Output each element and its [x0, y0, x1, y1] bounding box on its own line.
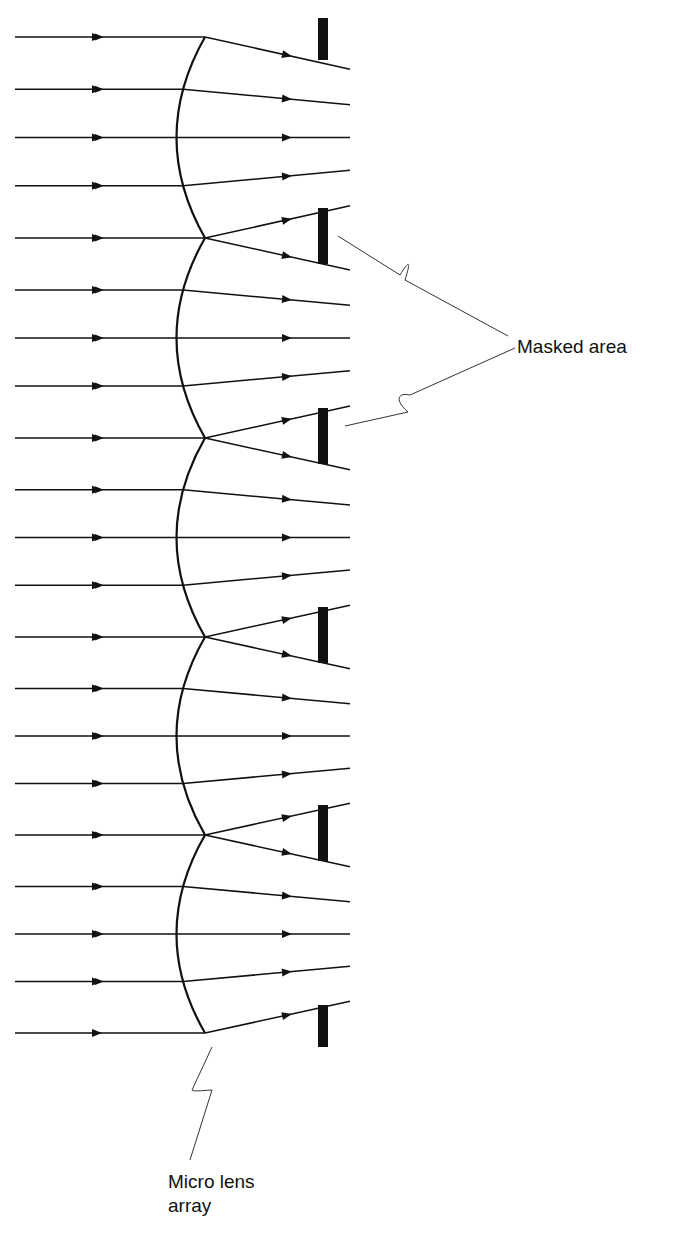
arrow-icon: [92, 334, 102, 342]
refracted-ray: [183, 688, 350, 703]
refracted-ray: [205, 406, 350, 438]
arrow-icon: [282, 495, 293, 504]
arrow-icon: [92, 882, 102, 890]
refracted-ray: [205, 605, 350, 637]
refracted-ray: [183, 570, 350, 585]
arrow-icon: [282, 172, 293, 181]
arrow-icon: [282, 534, 292, 542]
arrow-icon: [281, 812, 292, 822]
arrow-icon: [92, 831, 102, 839]
arrow-icon: [92, 780, 102, 788]
arrow-icon: [92, 182, 102, 190]
arrow-icon: [282, 295, 293, 304]
arrow-icon: [92, 286, 102, 294]
arrow-icon: [92, 581, 102, 589]
refracted-ray: [183, 490, 350, 505]
arrow-icon: [92, 382, 102, 390]
arrow-icon: [92, 1029, 102, 1037]
arrow-icon: [92, 134, 102, 142]
arrow-icon: [92, 486, 102, 494]
mask-bar: [318, 408, 328, 464]
arrow-icon: [282, 968, 293, 977]
refracted-ray: [183, 966, 350, 981]
arrow-icon: [282, 372, 293, 381]
refracted-ray: [205, 37, 350, 69]
arrow-icon: [281, 650, 292, 660]
refracted-ray: [183, 886, 350, 901]
refracted-ray: [205, 835, 350, 867]
refracted-ray: [205, 803, 350, 835]
arrow-icon: [281, 614, 292, 624]
micro-lens-array-label: Micro lens array: [168, 1170, 308, 1218]
arrow-icon: [281, 848, 292, 858]
mask-bar: [318, 805, 328, 861]
arrow-icon: [282, 930, 292, 938]
arrow-icon: [92, 732, 102, 740]
micro-lens-array-label-line1: Micro lens: [168, 1170, 308, 1194]
arrow-icon: [282, 134, 292, 142]
refracted-ray: [205, 1001, 350, 1033]
refracted-ray: [205, 238, 350, 270]
leader-masked-area-upper: [338, 236, 508, 336]
refracted-ray: [205, 206, 350, 238]
arrow-icon: [282, 732, 292, 740]
refracted-ray: [205, 438, 350, 470]
arrow-icon: [92, 633, 102, 641]
arrow-icon: [92, 930, 102, 938]
arrow-icon: [281, 215, 292, 225]
arrow-icon: [92, 978, 102, 986]
refracted-ray: [183, 170, 350, 185]
arrow-icon: [281, 251, 292, 261]
arrow-icon: [282, 94, 293, 103]
arrow-icon: [281, 451, 292, 461]
arrow-icon: [92, 684, 102, 692]
arrow-icon: [281, 50, 292, 60]
arrow-icon: [282, 694, 293, 703]
arrow-icon: [92, 534, 102, 542]
arrow-icon: [282, 334, 292, 342]
arrow-icon: [92, 85, 102, 93]
masked-area-label: Masked area: [517, 335, 627, 359]
arrow-icon: [281, 1010, 292, 1020]
leader-micro-lens-array: [190, 1047, 212, 1160]
refracted-ray: [205, 637, 350, 669]
leader-masked-area-lower: [345, 348, 515, 426]
arrow-icon: [282, 892, 293, 901]
refracted-ray: [183, 290, 350, 305]
mask-bar: [318, 208, 328, 264]
micro-lens-array-label-line2: array: [168, 1194, 308, 1218]
refracted-ray: [183, 768, 350, 783]
arrow-icon: [92, 234, 102, 242]
leader-lines: [190, 236, 515, 1160]
mask-bar: [318, 607, 328, 663]
mask-bar: [318, 1005, 328, 1047]
arrow-icon: [282, 571, 293, 580]
mask-bar: [318, 18, 328, 60]
arrow-icon: [92, 33, 102, 41]
arrow-icon: [281, 415, 292, 425]
refracted-ray: [183, 371, 350, 386]
refracted-ray: [183, 89, 350, 104]
arrow-icon: [92, 434, 102, 442]
micro-lens-diagram: [0, 0, 675, 1237]
arrow-icon: [282, 770, 293, 779]
